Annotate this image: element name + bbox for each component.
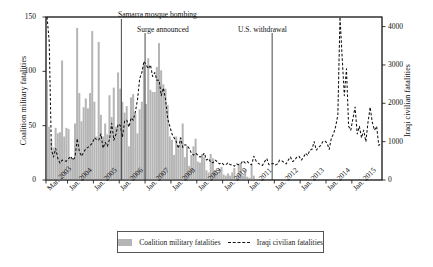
y-tick-label-right: 0 — [388, 175, 418, 184]
legend-swatch-dashed-line — [228, 242, 250, 243]
plot-canvas — [0, 0, 433, 267]
y-tick-label-left: 150 — [12, 12, 36, 21]
y-tick-label-left: 100 — [12, 66, 36, 75]
y-tick-label-right: 1000 — [388, 137, 418, 146]
legend-label-coalition: Coalition military fatalities — [139, 238, 220, 247]
y-tick-label-left: 50 — [12, 121, 36, 130]
annotation-label: U.S. withdrawal — [238, 25, 287, 34]
y-tick-label-right: 2000 — [388, 98, 418, 107]
chart-figure: Coalition military fatalities Iraqi civi… — [0, 0, 433, 267]
y-tick-label-left: 0 — [12, 175, 36, 184]
chart-legend: Coalition military fatalities Iraqi civi… — [117, 231, 324, 253]
y-axis-label-left: Coalition military fatalities — [19, 26, 28, 176]
y-tick-label-right: 3000 — [388, 60, 418, 69]
annotation-label: Surge announced — [137, 25, 189, 34]
legend-swatch-bar — [118, 239, 132, 246]
bar-series — [46, 28, 257, 180]
annotation-label: Samarra mosque bombing — [118, 10, 197, 19]
legend-label-iraqi: Iraqi civilian fatalities — [257, 238, 323, 247]
y-tick-label-right: 4000 — [388, 22, 418, 31]
